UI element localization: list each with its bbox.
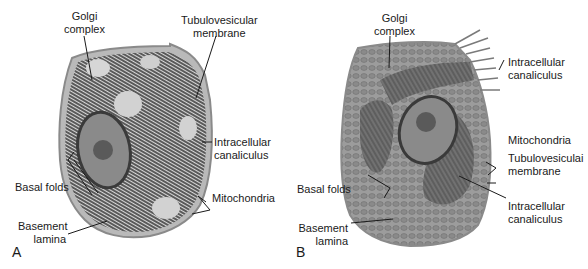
label-b-basement-line1: Basement (298, 222, 348, 235)
label-b-mitochondria: Mitochondria (508, 134, 571, 147)
label-a-intracellular-canaliculus: Intracellular canaliculus (214, 136, 271, 162)
label-b-tubulo-line1: Tubulovesiculai (508, 152, 583, 165)
cell-b (341, 30, 500, 246)
label-a-basement-lamina: Basement lamina (18, 220, 66, 246)
label-b-basement-line2: lamina (298, 235, 348, 248)
label-b-intracellular-canaliculus-bottom: Intracellular canaliculus (508, 200, 565, 226)
label-b-canal-top-line1: Intracellular (508, 56, 565, 69)
panel-letter-a: A (12, 244, 21, 260)
label-a-canal-line1: Intracellular (214, 136, 271, 149)
label-b-basal-folds: Basal folds (297, 183, 351, 196)
label-a-golgi-complex: Golgi complex (64, 10, 105, 36)
label-b-golgi-line1: Golgi (374, 12, 415, 25)
label-b-tubulovesicular-membrane: Tubulovesiculai membrane (508, 152, 583, 178)
label-b-canal-bot-line2: canaliculus (508, 213, 565, 226)
panel-letter-b: B (296, 244, 305, 260)
label-b-basement-lamina: Basement lamina (298, 222, 348, 248)
label-a-basement-line1: Basement (18, 220, 66, 233)
label-a-tubulo-line1: Tubulovesicular (181, 14, 258, 27)
label-a-golgi-line1: Golgi (64, 10, 105, 23)
label-b-golgi-complex: Golgi complex (374, 12, 415, 38)
label-b-canal-bot-line1: Intracellular (508, 200, 565, 213)
label-b-golgi-line2: complex (374, 25, 415, 38)
cell-a (59, 44, 212, 237)
cell-illustrations (0, 0, 588, 269)
label-a-tubulovesicular-membrane: Tubulovesicular membrane (181, 14, 258, 40)
label-a-basal-folds: Basal folds (15, 181, 69, 194)
label-b-intracellular-canaliculus-top: Intracellular canaliculus (508, 56, 565, 82)
label-a-tubulo-line2: membrane (181, 27, 258, 40)
label-a-canal-line2: canaliculus (214, 149, 271, 162)
label-a-basement-line2: lamina (18, 233, 66, 246)
label-b-canal-top-line2: canaliculus (508, 69, 565, 82)
label-a-mitochondria: Mitochondria (212, 192, 275, 205)
label-a-golgi-line2: complex (64, 23, 105, 36)
label-b-tubulo-line2: membrane (508, 165, 583, 178)
